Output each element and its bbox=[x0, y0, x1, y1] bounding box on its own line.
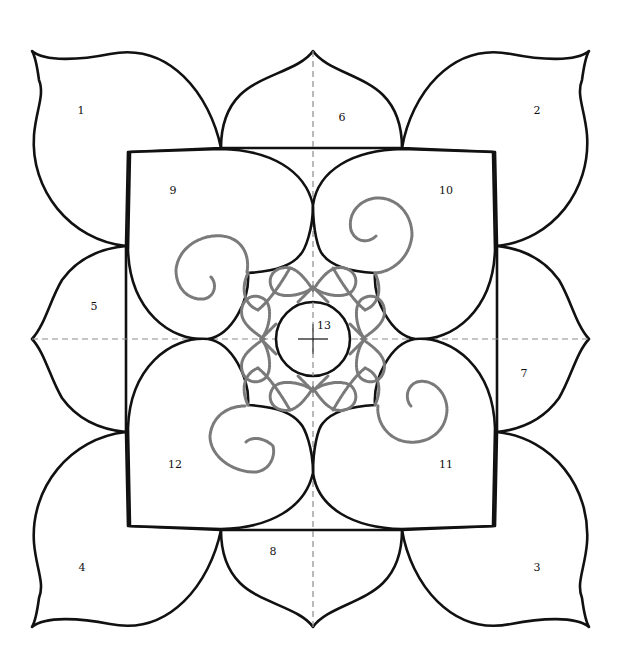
label-2: 2 bbox=[534, 104, 541, 117]
center-circle-group bbox=[276, 302, 350, 376]
region-8-shape bbox=[221, 530, 402, 627]
label-3: 3 bbox=[534, 561, 541, 574]
label-1: 1 bbox=[78, 104, 85, 117]
label-9: 9 bbox=[170, 184, 177, 197]
label-6: 6 bbox=[339, 111, 346, 124]
label-4: 4 bbox=[79, 561, 86, 574]
label-11: 11 bbox=[439, 458, 453, 471]
quilt-block-diagram: 1 2 3 4 5 6 7 8 9 10 11 12 13 bbox=[0, 0, 622, 664]
region-6-shape bbox=[221, 51, 402, 148]
diagram-canvas: 1 2 3 4 5 6 7 8 9 10 11 12 13 bbox=[0, 0, 622, 664]
label-8: 8 bbox=[270, 545, 277, 558]
label-5: 5 bbox=[91, 300, 98, 313]
label-7: 7 bbox=[521, 367, 528, 380]
label-13: 13 bbox=[317, 319, 331, 332]
label-10: 10 bbox=[439, 184, 453, 197]
label-12: 12 bbox=[168, 458, 182, 471]
